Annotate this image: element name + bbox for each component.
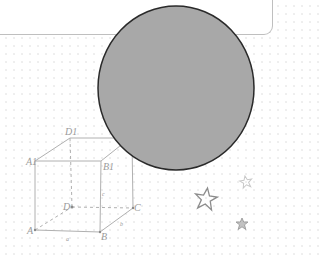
label-d1: D1 (64, 126, 77, 137)
label-c: C (134, 202, 141, 213)
star-icon (239, 175, 253, 188)
vertex-dots (34, 206, 134, 234)
star-icon (236, 218, 248, 230)
label-b: B (101, 231, 107, 242)
star-icon (194, 187, 219, 211)
label-edge-b: b (120, 221, 123, 227)
label-a1: A1 (25, 156, 37, 167)
cuboid-sketch (35, 138, 133, 232)
label-edge-a: a (66, 236, 69, 242)
gray-circle (98, 6, 254, 170)
label-edge-c: c (102, 191, 105, 197)
label-b1: B1 (103, 161, 114, 172)
label-a: A (26, 225, 34, 236)
label-d: D (62, 201, 71, 212)
sketch-canvas: D1 A1 B1 D C A B a b c (0, 0, 278, 256)
